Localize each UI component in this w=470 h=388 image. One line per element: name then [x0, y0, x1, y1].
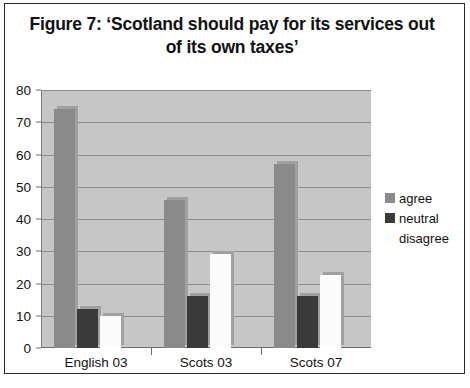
bar-face	[187, 296, 208, 348]
bar-disagree[interactable]	[320, 275, 341, 348]
y-tick-label: 80	[16, 83, 31, 98]
y-tick-label: 0	[23, 341, 31, 356]
x-tick-mark	[261, 348, 262, 355]
bar-agree[interactable]	[54, 109, 75, 348]
legend: agreeneutraldisagree	[385, 188, 465, 248]
bar-group	[41, 90, 151, 348]
x-tick-label: English 03	[41, 355, 151, 370]
plot-area	[41, 90, 371, 348]
bar-disagree[interactable]	[100, 316, 121, 348]
y-tick-label: 30	[16, 244, 31, 259]
y-tick-label: 60	[16, 147, 31, 162]
legend-label: disagree	[399, 231, 449, 246]
bar-set	[261, 90, 371, 348]
y-tick-label: 70	[16, 115, 31, 130]
bar-groups	[41, 90, 371, 348]
legend-item[interactable]: neutral	[385, 208, 465, 228]
legend-swatch-agree	[385, 193, 395, 203]
bar-face	[164, 200, 185, 348]
x-tick-label: Scots 07	[261, 355, 371, 370]
bar-face	[77, 309, 98, 348]
legend-swatch-disagree	[385, 233, 395, 243]
bar-set	[151, 90, 261, 348]
x-axis-labels: English 03Scots 03Scots 07	[41, 355, 371, 370]
bar-face	[274, 164, 295, 348]
bar-neutral[interactable]	[297, 296, 318, 348]
y-axis: 01020304050607080	[0, 90, 36, 348]
legend-label: neutral	[399, 211, 439, 226]
bar-group	[151, 90, 261, 348]
y-tick-label: 50	[16, 179, 31, 194]
y-tick-label: 10	[16, 308, 31, 323]
caption-strip	[8, 380, 462, 387]
legend-item[interactable]: agree	[385, 188, 465, 208]
bar-disagree[interactable]	[210, 254, 231, 348]
bar-face	[297, 296, 318, 348]
figure-title: Figure 7: ‘Scotland should pay for its s…	[22, 13, 442, 59]
y-tick-label: 40	[16, 212, 31, 227]
y-tick-label: 20	[16, 276, 31, 291]
x-tick-mark	[151, 348, 152, 355]
legend-label: agree	[399, 191, 432, 206]
figure-container: Figure 7: ‘Scotland should pay for its s…	[0, 0, 470, 388]
bar-face	[320, 275, 341, 348]
bar-set	[41, 90, 151, 348]
bar-group	[261, 90, 371, 348]
legend-swatch-neutral	[385, 213, 395, 223]
bar-face	[54, 109, 75, 348]
bar-agree[interactable]	[164, 200, 185, 348]
bar-face	[210, 254, 231, 348]
x-tick-label: Scots 03	[151, 355, 261, 370]
bar-neutral[interactable]	[77, 309, 98, 348]
bar-face	[100, 316, 121, 348]
bar-neutral[interactable]	[187, 296, 208, 348]
bar-agree[interactable]	[274, 164, 295, 348]
legend-item[interactable]: disagree	[385, 228, 465, 248]
